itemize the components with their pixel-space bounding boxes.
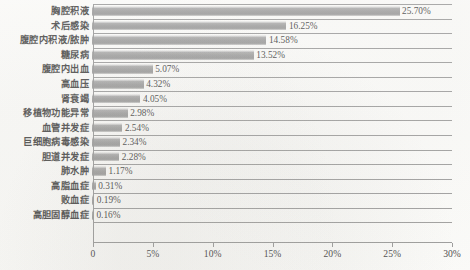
bar-value-label: 4.05% [140, 94, 167, 104]
bar [92, 138, 120, 147]
chart-row: 血管并发症2.54% [0, 120, 470, 135]
category-label: 高胆固醇血症 [4, 210, 92, 220]
chart-row: 腹腔内积液/脓肿14.58% [0, 33, 470, 48]
gridline [93, 120, 452, 121]
chart-rows: 胸腔积液25.70%术后感染16.25%腹腔内积液/脓肿14.58%糖尿病13.… [0, 4, 470, 222]
bar [92, 123, 122, 132]
chart-row: 高胆固醇血症0.16% [0, 208, 470, 223]
category-label: 血管并发症 [4, 123, 92, 133]
gridline [93, 77, 452, 78]
category-label: 腹腔内出血 [4, 64, 92, 74]
gridline [93, 106, 452, 107]
gridline [93, 48, 452, 49]
plot-cell: 4.32% [92, 77, 470, 92]
chart-row: 肾衰竭4.05% [0, 91, 470, 106]
gridline [93, 222, 452, 223]
chart-row: 败血症0.19% [0, 193, 470, 208]
plot-cell: 25.70% [92, 4, 470, 19]
chart-row: 术后感染16.25% [0, 19, 470, 34]
plot-cell: 13.52% [92, 48, 470, 63]
bar-value-label: 1.17% [106, 166, 133, 176]
chart-row: 糖尿病13.52% [0, 48, 470, 63]
bar-value-label: 2.28% [119, 152, 146, 162]
category-label: 胸腔积液 [4, 6, 92, 16]
plot-cell: 0.16% [92, 208, 470, 223]
gridline [93, 135, 452, 136]
chart-row: 肺水肿1.17% [0, 164, 470, 179]
plot-cell: 5.07% [92, 62, 470, 77]
chart-row: 胸腔积液25.70% [0, 4, 470, 19]
bar [92, 167, 106, 176]
category-label: 术后感染 [4, 21, 92, 31]
bar [92, 65, 153, 74]
bar [92, 80, 144, 89]
x-tick-label: 20% [324, 248, 342, 259]
bar-value-label: 16.25% [286, 21, 317, 31]
chart-row: 胆道并发症2.28% [0, 149, 470, 164]
x-tick-mark [273, 243, 274, 247]
x-tick-mark [452, 243, 453, 247]
gridline [93, 4, 452, 5]
gridline [93, 62, 452, 63]
category-label: 肾衰竭 [4, 94, 92, 104]
bar-value-label: 5.07% [153, 64, 180, 74]
x-tick-label: 15% [264, 248, 282, 259]
x-tick-label: 25% [383, 248, 401, 259]
chart-row: 巨细胞病毒感染2.34% [0, 135, 470, 150]
bar [92, 94, 140, 103]
plot-cell: 0.31% [92, 179, 470, 194]
gridline [93, 33, 452, 34]
gridline [93, 208, 452, 209]
chart-row: 高血压4.32% [0, 77, 470, 92]
plot-cell: 16.25% [92, 19, 470, 34]
gridline [93, 179, 452, 180]
category-label: 高血压 [4, 79, 92, 89]
category-label: 腹腔内积液/脓肿 [4, 35, 92, 45]
x-tick-mark [392, 243, 393, 247]
plot-cell: 1.17% [92, 164, 470, 179]
gridline [93, 193, 452, 194]
x-tick-label: 10% [204, 248, 222, 259]
gridline [93, 150, 452, 151]
bar-value-label: 0.19% [94, 195, 121, 205]
category-label: 移植物功能异常 [4, 108, 92, 118]
plot-cell: 0.19% [92, 193, 470, 208]
x-tick-mark [93, 243, 94, 247]
y-axis-line [93, 4, 94, 242]
bar-value-label: 14.58% [266, 35, 297, 45]
x-tick-label: 5% [146, 248, 159, 259]
category-label: 败血症 [4, 195, 92, 205]
plot-cell: 2.34% [92, 135, 470, 150]
bar-value-label: 13.52% [254, 50, 285, 60]
plot-cell: 4.05% [92, 91, 470, 106]
bar [92, 152, 119, 161]
bar [92, 7, 400, 16]
plot-cell: 2.28% [92, 149, 470, 164]
category-label: 胆道并发症 [4, 152, 92, 162]
category-label: 巨细胞病毒感染 [4, 137, 92, 147]
chart-row: 移植物功能异常2.98% [0, 106, 470, 121]
bar-value-label: 0.16% [94, 210, 121, 220]
x-tick-label: 0 [91, 248, 96, 259]
bar-value-label: 2.98% [128, 108, 155, 118]
bar [92, 22, 286, 31]
gridline [93, 164, 452, 165]
gridline [93, 91, 452, 92]
plot-cell: 2.54% [92, 120, 470, 135]
category-label: 高脂血症 [4, 181, 92, 191]
chart-row: 高脂血症0.31% [0, 179, 470, 194]
bar [92, 51, 254, 60]
chart-row: 腹腔内出血5.07% [0, 62, 470, 77]
bar-value-label: 25.70% [400, 6, 431, 16]
x-tick-label: 30% [443, 248, 461, 259]
category-label: 肺水肿 [4, 166, 92, 176]
horizontal-bar-chart: 胸腔积液25.70%术后感染16.25%腹腔内积液/脓肿14.58%糖尿病13.… [0, 0, 470, 270]
plot-cell: 2.98% [92, 106, 470, 121]
x-tick-mark [332, 243, 333, 247]
bar [92, 109, 128, 118]
bar-value-label: 2.54% [122, 123, 149, 133]
category-label: 糖尿病 [4, 50, 92, 60]
bar-value-label: 2.34% [120, 137, 147, 147]
x-tick-mark [153, 243, 154, 247]
bar [92, 36, 266, 45]
